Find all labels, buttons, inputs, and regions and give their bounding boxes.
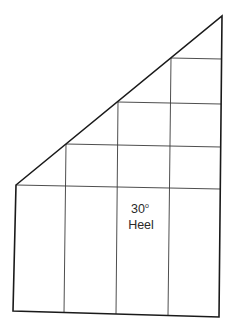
vertical-gridline	[168, 58, 171, 315]
vertical-gridline	[116, 102, 118, 314]
horizontal-gridline	[66, 144, 221, 147]
horizontal-gridline	[171, 58, 222, 59]
vertical-gridline	[64, 144, 66, 313]
heel-grid-diagram: 30o Heel	[0, 0, 234, 332]
horizontal-gridline	[16, 185, 220, 189]
horizontal-gridline	[118, 102, 221, 104]
degree-symbol: o	[145, 202, 149, 209]
angle-label: 30o	[131, 202, 149, 216]
heel-caption: Heel	[128, 218, 154, 232]
